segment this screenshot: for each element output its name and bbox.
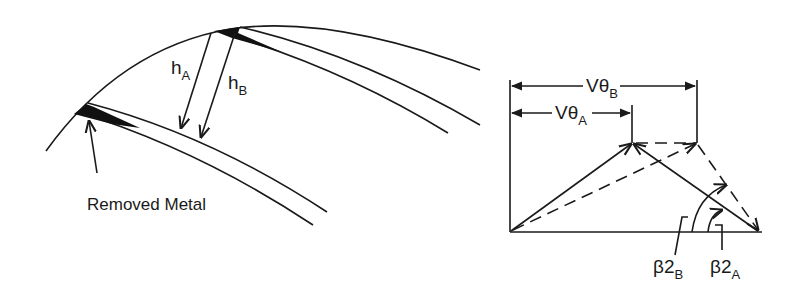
upper-blade-surface-2: [232, 36, 448, 133]
absolute-velocity-a-arrow: [511, 144, 631, 231]
removed-metal-pointer-arrow: [89, 121, 97, 173]
h-a-label: hA: [171, 57, 191, 83]
impeller-blade-panel: hA hB Removed Metal: [46, 26, 480, 225]
velocity-triangle-panel: VθB VθA β2B β2A: [510, 75, 762, 282]
diagram-canvas: hA hB Removed Metal VθB VθA: [0, 0, 802, 301]
upper-blade-surface-1: [240, 27, 480, 125]
beta2-a-arc: [708, 210, 722, 232]
beta2-b-label: β2B: [653, 256, 683, 282]
beta2-a-label: β2A: [710, 256, 741, 282]
upper-removed-metal-wedge: [214, 27, 282, 52]
h-b-label: hB: [228, 72, 247, 98]
beta2-b-leader: [675, 217, 688, 255]
removed-metal-label: Removed Metal: [87, 195, 206, 214]
absolute-velocity-b-arrow: [513, 144, 695, 230]
beta2-a-leader: [715, 225, 722, 250]
v-theta-a-label: VθA: [555, 102, 587, 128]
v-theta-b-label: VθB: [586, 75, 618, 101]
relative-velocity-b-arrow: [698, 145, 758, 230]
